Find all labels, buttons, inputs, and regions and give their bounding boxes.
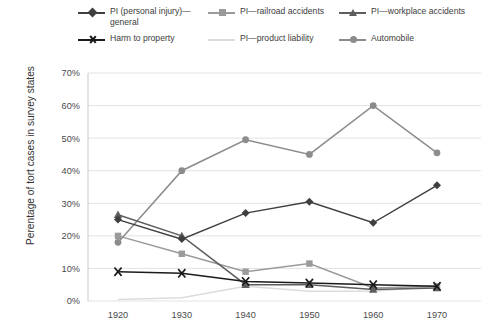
- y-tick-label: 0%: [67, 296, 80, 306]
- y-tick-label: 30%: [62, 199, 80, 209]
- series-2: [114, 210, 441, 292]
- plot-area: 0%10%20%30%40%50%60%70%19201930194019501…: [0, 60, 497, 336]
- chart-legend: PI (personal injury)—general PI—railroad…: [78, 6, 493, 56]
- y-tick-label: 50%: [62, 134, 80, 144]
- legend-item-harm-property[interactable]: Harm to property: [78, 33, 174, 45]
- legend-label-harm-property: Harm to property: [110, 33, 174, 44]
- chart-figure: PI (personal injury)—general PI—railroad…: [0, 0, 497, 336]
- y-tick-label: 10%: [62, 264, 80, 274]
- legend-swatch-harm-property: [78, 34, 105, 45]
- series-0: [114, 181, 441, 243]
- x-tick-label: 1940: [235, 310, 255, 320]
- x-tick-label: 1920: [108, 310, 128, 320]
- y-tick-label: 60%: [62, 101, 80, 111]
- legend-item-pi-product-liability[interactable]: PI—product liability: [208, 33, 314, 45]
- legend-label-pi-general: PI (personal injury)—general: [110, 6, 206, 27]
- legend-item-automobile[interactable]: Automobile: [339, 33, 414, 45]
- y-tick-label: 70%: [62, 68, 80, 78]
- legend-swatch-pi-workplace: [339, 7, 366, 18]
- x-tick-label: 1960: [363, 310, 383, 320]
- legend-label-pi-workplace: PI—workplace accidents: [371, 6, 465, 17]
- legend-item-pi-railroad[interactable]: PI—railroad accidents: [208, 6, 324, 18]
- legend-swatch-pi-railroad: [208, 7, 235, 18]
- legend-item-pi-workplace[interactable]: PI—workplace accidents: [339, 6, 465, 18]
- x-tick-label: 1970: [427, 310, 447, 320]
- legend-label-pi-railroad: PI—railroad accidents: [240, 6, 324, 17]
- legend-swatch-automobile: [339, 34, 366, 45]
- y-tick-label: 40%: [62, 166, 80, 176]
- legend-label-pi-product-liability: PI—product liability: [240, 33, 314, 44]
- x-tick-label: 1950: [299, 310, 319, 320]
- legend-swatch-pi-product-liability: [208, 34, 235, 45]
- legend-label-automobile: Automobile: [371, 33, 414, 44]
- series-5: [115, 102, 441, 246]
- legend-item-pi-general[interactable]: PI (personal injury)—general: [78, 6, 206, 27]
- y-tick-label: 20%: [62, 231, 80, 241]
- x-tick-label: 1930: [172, 310, 192, 320]
- chart-svg: 0%10%20%30%40%50%60%70%19201930194019501…: [0, 60, 497, 336]
- legend-swatch-pi-general: [78, 7, 105, 18]
